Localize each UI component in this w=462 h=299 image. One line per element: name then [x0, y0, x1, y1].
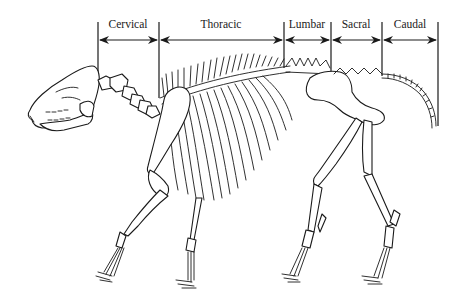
pelvis [306, 68, 384, 125]
forelimb-rear [176, 198, 202, 288]
skull [28, 66, 99, 131]
diagram-canvas [0, 0, 462, 299]
hindlimb-rear [362, 120, 400, 284]
label-cervical: Cervical [109, 18, 148, 30]
forelimb-shoulder [147, 87, 190, 196]
skeleton-diagram: Cervical Thoracic Lumbar Sacral Caudal [0, 0, 462, 299]
label-sacral: Sacral [342, 18, 371, 30]
label-thoracic: Thoracic [201, 18, 242, 30]
label-lumbar: Lumbar [289, 18, 325, 30]
forelimb-front [96, 190, 168, 282]
tail [382, 74, 436, 128]
hindlimb-front [282, 118, 362, 282]
cervical-vertebrae [98, 74, 160, 118]
label-caudal: Caudal [394, 18, 427, 30]
lumbar-vertebrae [286, 58, 330, 74]
